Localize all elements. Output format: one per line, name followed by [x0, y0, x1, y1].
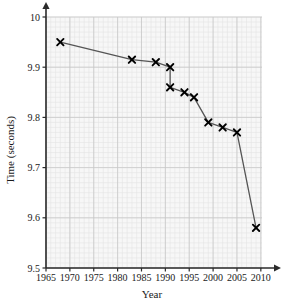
- x-axis-tick-labels: 1965197019751980198519901995200020052010: [36, 272, 271, 283]
- line-chart: 1965197019751980198519901995200020052010…: [0, 0, 284, 303]
- y-tick-label: 9.9: [28, 62, 41, 73]
- x-tick-label: 1975: [84, 272, 104, 283]
- x-tick-label: 2005: [227, 272, 247, 283]
- y-tick-label: 10: [30, 12, 40, 23]
- x-tick-label: 1980: [108, 272, 128, 283]
- x-tick-label: 1965: [36, 272, 56, 283]
- x-tick-label: 1990: [155, 272, 175, 283]
- x-tick-label: 1985: [131, 272, 151, 283]
- x-tick-label: 2010: [251, 272, 271, 283]
- y-tick-label: 9.5: [28, 263, 41, 274]
- x-tick-label: 1995: [179, 272, 199, 283]
- y-tick-label: 9.6: [28, 212, 41, 223]
- chart-container: 1965197019751980198519901995200020052010…: [0, 0, 284, 303]
- x-axis-title: Year: [142, 288, 163, 300]
- x-tick-label: 1970: [60, 272, 80, 283]
- y-tick-label: 9.7: [28, 162, 41, 173]
- y-axis-tick-labels: 9.59.69.79.89.910: [28, 12, 41, 274]
- x-tick-label: 2000: [203, 272, 223, 283]
- y-axis-title: Time (seconds): [4, 116, 17, 184]
- y-tick-label: 9.8: [28, 112, 41, 123]
